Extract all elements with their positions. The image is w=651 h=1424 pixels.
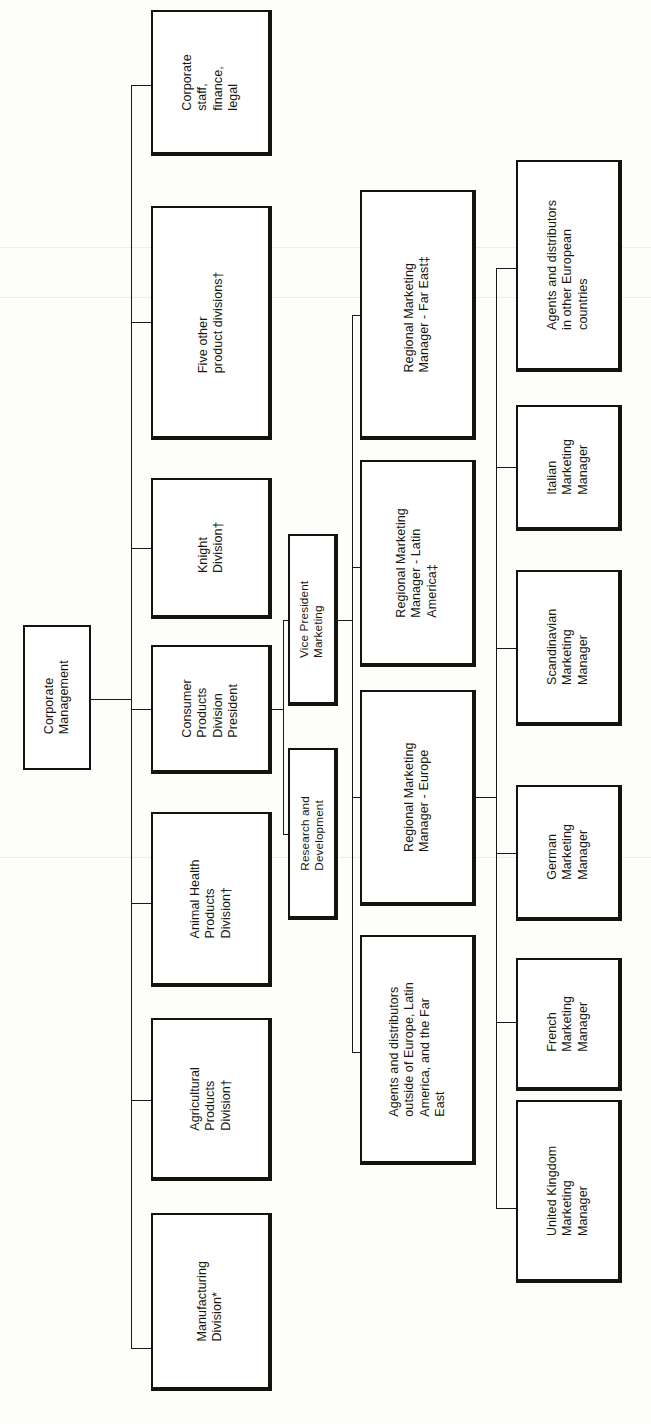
connector-trunk-agricultural [131,1100,152,1101]
node-five-other-divisions[interactable]: Five other product divisions† [151,206,272,440]
connector-bus-french [496,1022,517,1023]
node-animal-health[interactable]: Animal Health Products Division† [151,812,272,987]
connector-trunk-knight [131,548,152,549]
node-scandinavian-manager-label: Scandinavian Marketing Manager [545,609,591,685]
node-vice-president-marketing[interactable]: Vice President Marketing [288,534,338,706]
connector-trunk-corporate-staff [131,85,152,86]
node-french-manager-label: French Marketing Manager [545,996,591,1052]
node-rmm-far-east-label: Regional Marketing Manager - Far East‡ [402,256,433,373]
node-german-manager[interactable]: German Marketing Manager [516,785,622,921]
connector-bus-agents-other-european [496,268,517,269]
node-french-manager[interactable]: French Marketing Manager [516,958,622,1091]
node-agricultural-products-label: Agricultural Products Division† [188,1067,234,1131]
node-rmm-europe-label: Regional Marketing Manager - Europe [402,742,433,852]
node-agents-outside-label: Agents and distributors outside of Europ… [387,982,448,1116]
node-five-other-divisions-label: Five other product divisions† [195,271,226,373]
connector-vp-to-regional-bus [338,620,353,621]
org-chart: Corporate Management Corporate staff, fi… [0,0,651,1424]
connector-bus-german [496,853,517,854]
node-research-and-development[interactable]: Research and Development [288,748,338,920]
connector-trunk-manufacturing [131,1348,152,1349]
connector-europe-to-country-bus [476,797,497,798]
bus-consumer-children [283,620,284,835]
node-italian-manager-label: Italian Marketing Manager [545,439,591,495]
node-agents-other-european[interactable]: Agents and distributors in other Europea… [516,160,622,372]
node-rmm-latin-america-label: Regional Marketing Manager - Latin Ameri… [394,508,440,618]
node-agents-outside[interactable]: Agents and distributors outside of Europ… [360,935,476,1165]
connector-bus-uk [496,1208,517,1209]
node-knight-division[interactable]: Knight Division† [151,478,272,619]
connector-trunk-five-other [131,322,152,323]
node-italian-manager[interactable]: Italian Marketing Manager [516,405,622,531]
bus-country-managers [496,268,497,1208]
node-research-and-development-label: Research and Development [298,796,327,871]
node-corporate-management-label: Corporate Management [42,661,73,735]
node-rmm-latin-america[interactable]: Regional Marketing Manager - Latin Ameri… [360,460,476,667]
node-german-manager-label: German Marketing Manager [545,824,591,880]
node-corporate-staff-label: Corporate staff, finance, legal [180,54,241,111]
connector-trunk-consumer-products [131,709,152,710]
node-animal-health-label: Animal Health Products Division† [188,859,234,938]
node-scandinavian-manager[interactable]: Scandinavian Marketing Manager [516,570,622,726]
node-agents-other-european-label: Agents and distributors in other Europea… [545,200,591,330]
trunk-divisions [131,85,132,1348]
node-corporate-staff[interactable]: Corporate staff, finance, legal [151,10,272,156]
node-manufacturing-division[interactable]: Manufacturing Division* [151,1213,272,1391]
connector-bus-scandinavian [496,648,517,649]
node-uk-manager[interactable]: United Kingdom Marketing Manager [516,1100,622,1283]
node-rmm-far-east[interactable]: Regional Marketing Manager - Far East‡ [360,190,476,440]
node-consumer-products-president-label: Consumer Products Division President [180,679,241,737]
bus-regional-marketing [352,315,353,1052]
node-uk-manager-label: United Kingdom Marketing Manager [545,1145,591,1235]
connector-bus-italian [496,467,517,468]
node-corporate-management[interactable]: Corporate Management [23,625,91,770]
node-knight-division-label: Knight Division† [195,522,226,574]
connector-corporate-to-trunk [91,699,132,700]
node-manufacturing-division-label: Manufacturing Division* [195,1261,226,1342]
node-agricultural-products[interactable]: Agricultural Products Division† [151,1018,272,1181]
node-rmm-europe[interactable]: Regional Marketing Manager - Europe [360,690,476,906]
connector-trunk-animal-health [131,903,152,904]
node-consumer-products-president[interactable]: Consumer Products Division President [151,645,272,774]
node-vice-president-marketing-label: Vice President Marketing [298,580,327,657]
